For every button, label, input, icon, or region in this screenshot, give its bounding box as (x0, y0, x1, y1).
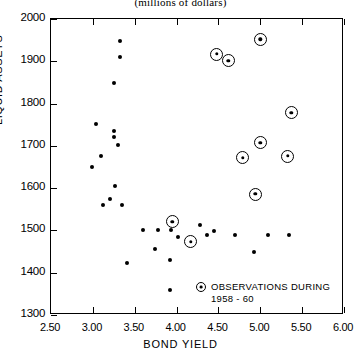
x-tick (302, 307, 303, 313)
x-tick (218, 307, 219, 313)
x-tick (260, 307, 261, 313)
y-tick (51, 19, 57, 20)
data-point (112, 81, 116, 85)
chart-caption: (millions of dollars) (0, 0, 361, 8)
data-point (168, 258, 172, 262)
data-point (169, 228, 173, 232)
data-point (120, 203, 124, 207)
legend-label-line2: 1958 - 60 (211, 293, 330, 305)
data-point (112, 135, 116, 139)
data-point-circled (254, 136, 267, 149)
x-tick-top (344, 19, 345, 25)
y-tick (51, 230, 57, 231)
data-point (153, 247, 157, 251)
data-point (99, 154, 103, 158)
data-point-circled (249, 188, 262, 201)
data-point (125, 261, 129, 265)
plot-area (51, 19, 342, 313)
legend-entry: OBSERVATIONS DURING (196, 281, 330, 293)
data-point-circled (285, 106, 298, 119)
data-point-circled (184, 235, 197, 248)
y-tick-label: 1400 (1, 265, 45, 277)
x-tick-label: 4.50 (197, 321, 237, 333)
x-tick-top (93, 19, 94, 25)
x-tick-top (260, 19, 261, 25)
data-point (252, 250, 256, 254)
x-tick (177, 307, 178, 313)
y-tick (51, 315, 57, 316)
data-point-circled (222, 54, 235, 67)
data-point (118, 55, 122, 59)
x-tick-top (177, 19, 178, 25)
data-point (212, 229, 216, 233)
data-point-circled (236, 151, 249, 164)
scatter-plot-figure: (millions of dollars) LIQUID ASSETS BOND… (0, 0, 361, 354)
x-axis-title: BOND YIELD (0, 338, 361, 350)
data-point (198, 223, 202, 227)
x-tick-top (218, 19, 219, 25)
data-point (205, 233, 209, 237)
data-point (116, 143, 120, 147)
data-point (176, 235, 180, 239)
x-tick-label: 4.00 (156, 321, 196, 333)
data-point (266, 233, 270, 237)
legend: OBSERVATIONS DURING 1958 - 60 (196, 281, 330, 305)
circled-dot-icon (196, 282, 206, 292)
y-tick (51, 188, 57, 189)
data-point (287, 233, 291, 237)
x-tick (344, 307, 345, 313)
data-point (94, 122, 98, 126)
data-point (233, 233, 237, 237)
data-point (168, 288, 172, 292)
y-tick (51, 273, 57, 274)
y-tick (51, 61, 57, 62)
y-tick (51, 146, 57, 147)
y-tick-label: 1800 (1, 96, 45, 108)
data-point-circled (281, 150, 294, 163)
data-point (156, 228, 160, 232)
y-tick-label: 1300 (1, 307, 45, 319)
y-tick-label: 1500 (1, 222, 45, 234)
y-axis-title: LIQUID ASSETS (0, 35, 4, 125)
x-tick-label: 5.00 (239, 321, 279, 333)
x-tick-label: 3.00 (72, 321, 112, 333)
x-tick-top (135, 19, 136, 25)
plot-frame (50, 18, 343, 314)
x-tick-label: 2.50 (30, 321, 70, 333)
y-tick-label: 1700 (1, 138, 45, 150)
x-tick (135, 307, 136, 313)
x-tick (93, 307, 94, 313)
legend-label-line1: OBSERVATIONS DURING (211, 281, 330, 293)
data-point (118, 39, 122, 43)
data-point (101, 203, 105, 207)
y-tick-label: 1600 (1, 180, 45, 192)
data-point (113, 184, 117, 188)
data-point (112, 129, 116, 133)
data-point-circled (254, 33, 267, 46)
y-tick (51, 104, 57, 105)
y-tick-label: 2000 (1, 11, 45, 23)
x-tick-label: 5.50 (281, 321, 321, 333)
y-tick-label: 1900 (1, 53, 45, 65)
x-tick-top (302, 19, 303, 25)
x-tick-label: 6.00 (323, 321, 361, 333)
x-tick-label: 3.50 (114, 321, 154, 333)
data-point (90, 165, 94, 169)
data-point (108, 197, 112, 201)
data-point-circled (166, 215, 179, 228)
data-point (141, 228, 145, 232)
